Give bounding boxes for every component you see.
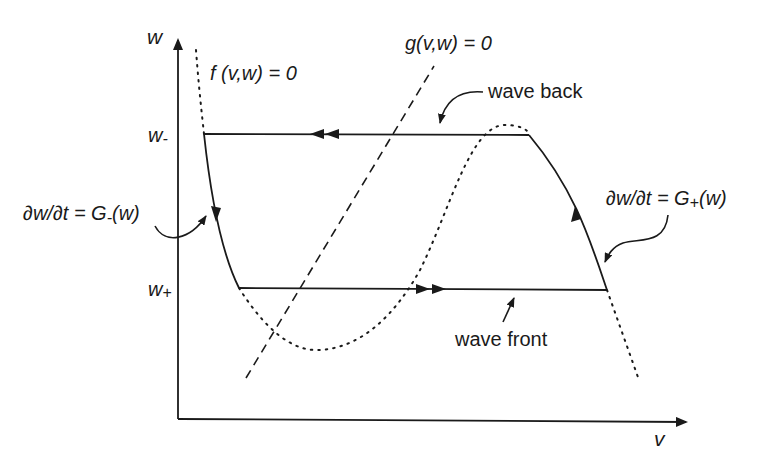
w-plus-label: w+ <box>148 278 172 301</box>
wave-back-segment <box>204 134 529 135</box>
g-minus-arrow <box>211 206 221 222</box>
wave-front-arrow-2 <box>432 284 446 294</box>
y-axis-label: w <box>147 25 164 48</box>
g-minus-branch <box>204 134 239 288</box>
g-nullcline-line <box>246 66 434 378</box>
wave-back-label: wave back <box>487 80 583 102</box>
wave-front-arrow-1 <box>416 284 430 294</box>
f-nullcline-mid <box>204 134 239 288</box>
g-minus-pointer <box>155 216 206 238</box>
g-minus-equation: ∂w/∂t = G-(w) <box>23 202 140 226</box>
x-axis <box>178 419 686 422</box>
wave-front-label: wave front <box>454 328 548 350</box>
x-axis-label: v <box>654 427 666 450</box>
wave-back-arrow-2 <box>325 129 339 139</box>
g-plus-branch <box>529 135 607 290</box>
wave-back-arrow-1 <box>310 129 324 139</box>
f-nullcline-label: f (v,w) = 0 <box>210 62 297 84</box>
g-plus-equation: ∂w/∂t = G+(w) <box>606 187 727 211</box>
phase-plane-diagram: w v w- w+ f (v,w) = 0 g(v,w) = 0 wave ba… <box>0 0 774 470</box>
g-nullcline-label: g(v,w) = 0 <box>405 32 492 54</box>
wave-back-pointer <box>440 92 483 123</box>
wave-loop <box>204 129 607 294</box>
g-plus-pointer <box>605 215 668 262</box>
w-minus-label: w- <box>148 124 168 147</box>
wave-front-pointer <box>503 298 514 322</box>
